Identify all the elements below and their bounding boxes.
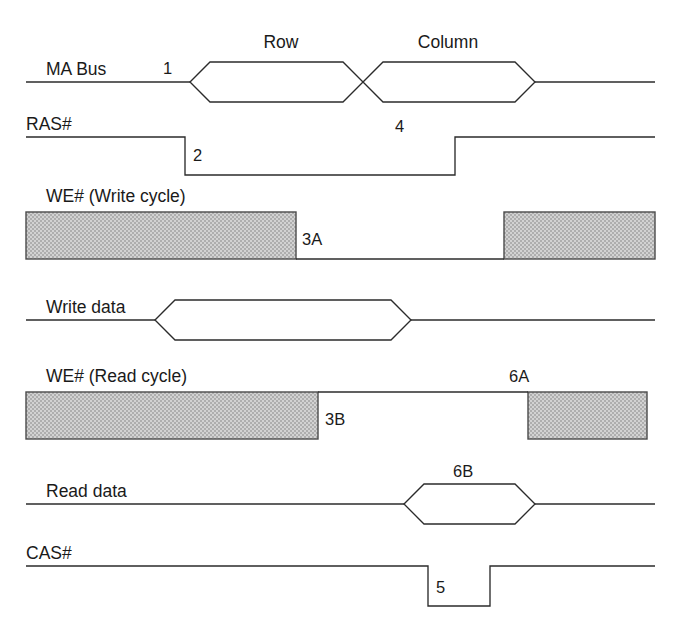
signal-label-ma-bus: MA Bus [46,59,107,79]
write-data-hexagon [155,300,411,340]
signal-label-ras: RAS# [26,114,72,134]
we-read-block-2 [528,392,647,439]
we-write-block-1 [26,212,296,259]
annotation-6b: 6B [453,462,473,480]
signal-label-we-write: WE# (Write cycle) [46,186,186,206]
we-read-block-1 [26,392,318,439]
annotation-3b: 3B [325,410,345,428]
annotation-1: 1 [163,59,172,77]
signal-label-cas: CAS# [26,543,72,563]
annotation-4: 4 [395,117,404,135]
annotation-3a: 3A [302,230,322,248]
signal-label-write-data: Write data [46,297,126,317]
signal-label-read-data: Read data [46,481,127,501]
ma-bus-value-row: Row [263,32,298,52]
signal-label-we-read: WE# (Read cycle) [46,366,187,386]
ma-bus-value-column: Column [418,32,478,52]
ma-bus-row-hexagon [190,62,363,102]
timing-diagram: MA Bus Row Column 1 4 RAS# 2 WE# (Write … [0,0,679,641]
read-data-hexagon [404,484,535,524]
annotation-6a: 6A [509,367,529,385]
ma-bus-column-hexagon [363,62,535,102]
annotation-5: 5 [436,578,445,596]
we-write-block-2 [504,212,655,259]
annotation-2: 2 [193,146,202,164]
